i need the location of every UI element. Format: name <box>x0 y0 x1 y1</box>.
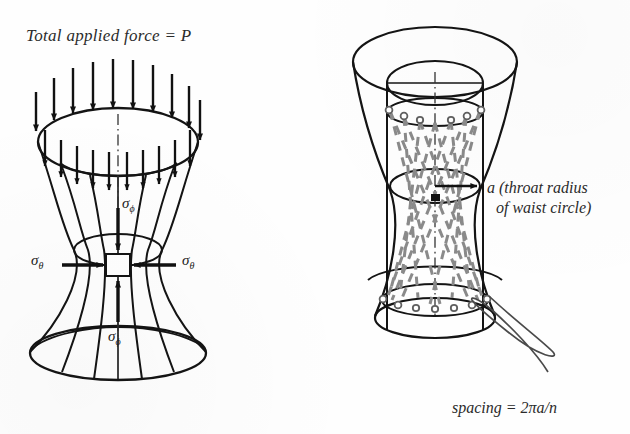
waist-center-marker <box>431 194 440 201</box>
sigma-phi-top-label: σϕ <box>122 195 135 214</box>
sigma-theta-right-label: σθ <box>182 252 194 271</box>
spacing-annotation: spacing = 2πa/n <box>452 398 557 418</box>
stress-element-square <box>106 254 130 276</box>
sigma-phi-bottom-label: σϕ <box>108 328 121 347</box>
sigma-theta-left-label: σθ <box>31 252 43 271</box>
throat-radius-annotation-line2: of waist circle) <box>496 198 591 218</box>
page-title: Total applied force = P <box>26 26 191 47</box>
load-arrows-outer <box>36 59 200 140</box>
throat-radius-annotation-line1: a (throat radius <box>487 178 588 198</box>
figure-canvas: Total applied force = P σϕ σϕ σθ σθ a (t… <box>0 0 630 434</box>
